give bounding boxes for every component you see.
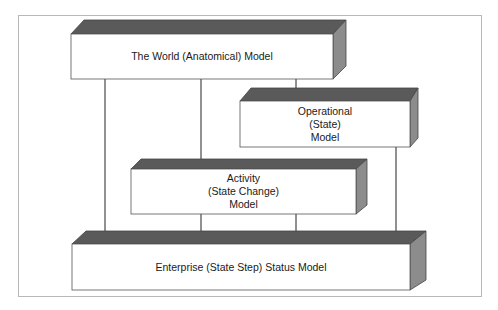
box-activity-label: Activity (State Change) Model — [131, 169, 356, 214]
box-enterprise-label: Enterprise (State Step) Status Model — [72, 244, 410, 290]
box-world-line-1: The World (Anatomical) Model — [131, 50, 273, 63]
box-operational-label: Operational (State) Model — [240, 101, 410, 147]
box-activity-line-3: Model — [229, 198, 258, 211]
box-operational-line-3: Model — [311, 131, 340, 144]
box-activity-line-1: Activity — [227, 172, 260, 185]
box-operational-line-2: (State) — [309, 118, 341, 131]
box-activity-line-2: (State Change) — [208, 185, 279, 198]
box-operational-line-1: Operational — [298, 105, 352, 118]
box-enterprise-line-1: Enterprise (State Step) Status Model — [156, 261, 327, 274]
box-world-label: The World (Anatomical) Model — [71, 34, 333, 79]
